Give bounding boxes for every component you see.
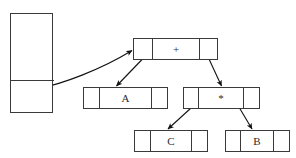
tree-node-grandchild-right[interactable]: B: [225, 130, 290, 152]
tree-node-root[interactable]: +: [133, 38, 218, 60]
tree-node-right-child[interactable]: *: [183, 87, 260, 109]
tree-node-grandchild-left-right-pointer[interactable]: [191, 131, 207, 151]
tree-node-grandchild-left-left-pointer[interactable]: [135, 131, 151, 151]
tree-node-left-child-value: A: [100, 88, 151, 108]
diagram-canvas: + A * C B: [0, 0, 296, 158]
tree-node-right-child-value: *: [199, 88, 243, 108]
edge-right-child-to-grandchild-right: [240, 108, 253, 129]
tree-node-grandchild-right-value: B: [241, 131, 273, 151]
tree-node-root-right-pointer[interactable]: [199, 39, 217, 59]
tree-node-grandchild-left[interactable]: C: [134, 130, 208, 152]
tree-node-grandchild-left-value: C: [151, 131, 191, 151]
tree-node-right-child-right-pointer[interactable]: [243, 88, 259, 108]
tree-node-grandchild-right-left-pointer[interactable]: [226, 131, 241, 151]
tree-node-root-value: +: [153, 39, 199, 59]
tree-node-left-child-left-pointer[interactable]: [84, 88, 100, 108]
tree-node-left-child[interactable]: A: [83, 87, 168, 109]
edge-root-to-left-child: [117, 59, 143, 86]
edge-root-to-right-child: [209, 59, 222, 86]
edge-right-child-to-grandchild-left: [168, 108, 191, 129]
stack-frame-divider: [11, 80, 54, 81]
tree-node-right-child-left-pointer[interactable]: [184, 88, 199, 108]
tree-node-root-left-pointer[interactable]: [134, 39, 153, 59]
tree-node-grandchild-right-right-pointer[interactable]: [273, 131, 289, 151]
tree-node-left-child-right-pointer[interactable]: [151, 88, 167, 108]
stack-frame: [10, 13, 53, 113]
